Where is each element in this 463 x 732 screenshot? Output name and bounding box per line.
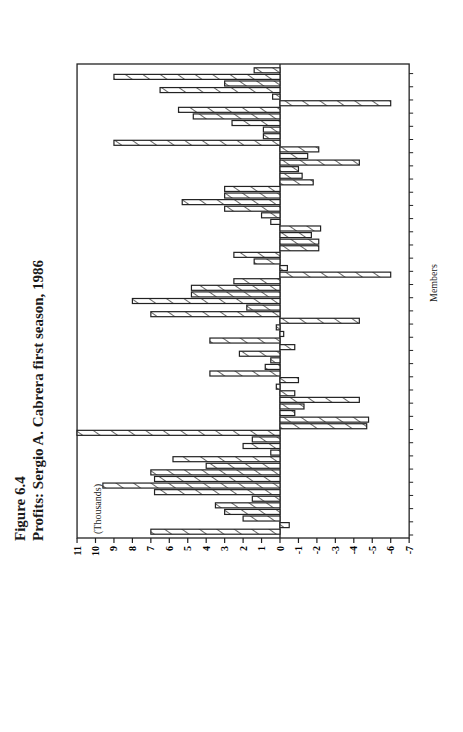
bar (215, 503, 280, 508)
bar (280, 147, 319, 152)
bar (191, 285, 280, 290)
bar (77, 430, 280, 435)
bar (239, 351, 280, 356)
bar (271, 358, 280, 363)
bar (280, 318, 359, 323)
axes: 11109876543210-1-2-3-4-5-6-7 (72, 64, 415, 556)
bars (77, 68, 391, 534)
bar (276, 384, 280, 389)
y-tick-label: -4 (348, 546, 359, 554)
bar (254, 259, 280, 264)
y-tick-label: 1 (256, 546, 267, 551)
bar-chart: 11109876543210-1-2-3-4-5-6-7 (0, 0, 463, 732)
bar (173, 457, 280, 462)
bar (225, 186, 280, 191)
bar (280, 331, 284, 336)
bar (103, 483, 280, 488)
y-tick-label: 11 (72, 546, 83, 555)
bar (179, 107, 280, 112)
bar (151, 529, 280, 534)
bar (276, 325, 280, 330)
bar (193, 114, 280, 119)
bar (280, 266, 287, 271)
bar (280, 397, 359, 402)
bar (280, 226, 321, 231)
bar (151, 312, 280, 317)
bar (280, 101, 391, 106)
bar (210, 338, 280, 343)
bar (280, 160, 359, 165)
bar (132, 298, 280, 303)
bar (252, 437, 280, 442)
y-tick-label: -2 (311, 546, 322, 554)
y-tick-label: 9 (108, 546, 119, 551)
rotated-page: Figure 6.4 Profits: Sergio A. Cabrera fi… (0, 0, 463, 732)
bar (232, 121, 280, 126)
y-tick-label: 5 (182, 546, 193, 551)
y-tick-label: 4 (201, 546, 212, 551)
bar (225, 206, 280, 211)
bar (280, 167, 298, 172)
bar (254, 68, 280, 73)
bar (280, 233, 311, 238)
bar (280, 180, 313, 185)
y-tick-label: -5 (367, 546, 378, 554)
bar (206, 463, 280, 468)
bar (280, 345, 295, 350)
y-tick-label: -7 (404, 546, 415, 554)
bar (252, 496, 280, 501)
y-tick-label: 8 (127, 546, 138, 551)
bar (271, 219, 280, 224)
y-tick-label: 7 (145, 546, 156, 551)
bar (155, 490, 280, 495)
bar (182, 200, 280, 205)
y-tick-label: -3 (330, 546, 341, 554)
bar (280, 523, 289, 528)
y-tick-label: -1 (293, 546, 304, 554)
bar (160, 88, 280, 93)
y-tick-label: 2 (238, 546, 249, 551)
bar (225, 81, 280, 86)
bar (273, 94, 280, 99)
y-tick-label: 6 (164, 546, 175, 551)
bar (271, 450, 280, 455)
bar (155, 476, 280, 481)
bar (114, 140, 280, 145)
bar (262, 213, 280, 218)
bar (265, 364, 280, 369)
bar (114, 74, 280, 79)
bar (234, 252, 280, 257)
bar (280, 246, 319, 251)
bar (280, 417, 369, 422)
bar (225, 509, 280, 514)
bar (280, 173, 302, 178)
bar (280, 404, 304, 409)
bar (247, 305, 280, 310)
y-tick-label: 0 (275, 546, 286, 551)
bar (280, 411, 295, 416)
bar (280, 272, 391, 277)
bar (280, 391, 295, 396)
bar (243, 444, 280, 449)
bar (225, 193, 280, 198)
bar (280, 239, 319, 244)
bar (280, 424, 367, 429)
bar (234, 279, 280, 284)
bar (243, 516, 280, 521)
bar (263, 134, 280, 139)
bar (210, 371, 280, 376)
bar (191, 292, 280, 297)
y-tick-label: -6 (385, 546, 396, 554)
bar (151, 470, 280, 475)
bar (280, 378, 298, 383)
bar (263, 127, 280, 132)
bar (280, 153, 308, 158)
y-tick-label: 3 (219, 546, 230, 551)
y-tick-label: 10 (90, 546, 101, 556)
